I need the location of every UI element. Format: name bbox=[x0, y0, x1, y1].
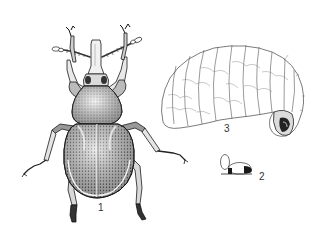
larva bbox=[162, 45, 305, 136]
label-larva: 3 bbox=[224, 124, 230, 134]
front-claws bbox=[66, 24, 130, 36]
illustration-drawing bbox=[0, 0, 322, 236]
weevil-illustration: 1 2 3 bbox=[0, 0, 322, 236]
eggs bbox=[221, 155, 253, 175]
label-eggs: 2 bbox=[259, 172, 265, 182]
hind-tarsi bbox=[70, 204, 146, 222]
label-adult: 1 bbox=[98, 203, 104, 213]
